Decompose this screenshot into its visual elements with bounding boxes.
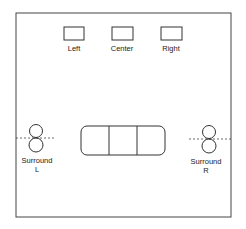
speaker-layout-diagram: Left Center Right Surround L Surround R <box>0 0 246 229</box>
surround-right-icon-top <box>203 126 216 139</box>
couch-icon <box>81 126 165 155</box>
surround-left-label-line1: Surround <box>22 156 53 165</box>
speaker-surround-left: Surround L <box>16 125 56 175</box>
speaker-right-icon <box>161 27 182 40</box>
speaker-left: Left <box>64 27 84 53</box>
couch <box>81 126 165 155</box>
speaker-right-label: Right <box>162 44 180 53</box>
speaker-left-icon <box>64 27 84 40</box>
surround-right-label-line2: R <box>203 166 209 175</box>
speaker-center-label: Center <box>111 44 134 53</box>
speaker-center-icon <box>112 27 133 40</box>
surround-right-icon-bottom <box>202 139 216 153</box>
surround-left-label-line2: L <box>35 165 39 174</box>
surround-right-label-line1: Surround <box>191 157 222 166</box>
speaker-center: Center <box>111 27 134 53</box>
surround-left-icon-top <box>30 125 43 138</box>
speaker-right: Right <box>161 27 182 53</box>
speaker-surround-right: Surround R <box>189 126 231 176</box>
surround-left-icon-bottom <box>29 138 43 152</box>
speaker-left-label: Left <box>68 44 81 53</box>
